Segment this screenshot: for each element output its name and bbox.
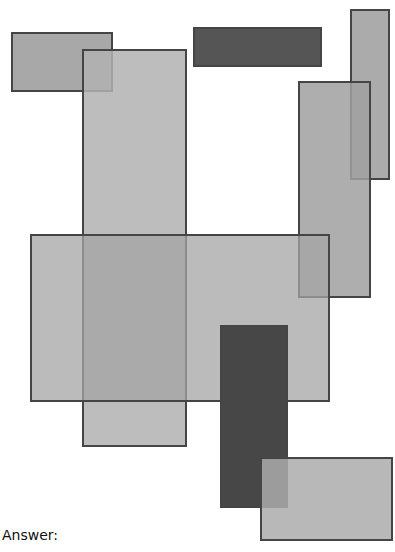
answer-label: Answer: (2, 527, 58, 543)
rectangle-r3 (193, 27, 322, 67)
rectangle-r8 (260, 457, 393, 541)
